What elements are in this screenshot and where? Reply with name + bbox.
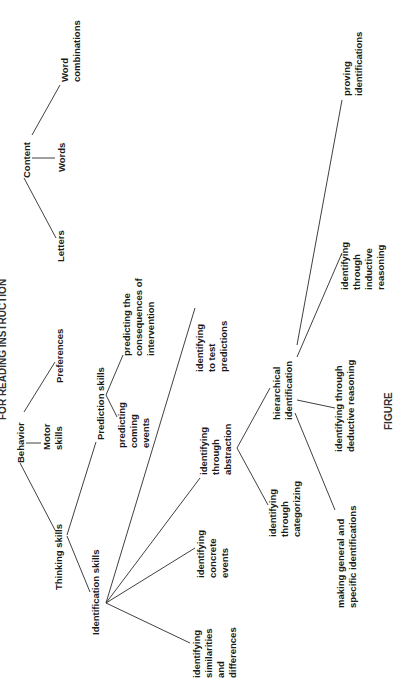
node-proving-identifications: proving identifications (341, 32, 364, 96)
node-word-combinations: Word combinations (59, 20, 82, 82)
node-identification-skills: Identification skills (90, 549, 101, 635)
svg-text:deductive reasoning: deductive reasoning (345, 359, 356, 452)
node-thinking-skills: Thinking skills (53, 524, 64, 590)
svg-text:intervention: intervention (145, 301, 156, 356)
node-prediction-skills: Prediction skills (95, 367, 106, 440)
svg-text:and: and (215, 661, 226, 678)
svg-text:Letters: Letters (55, 230, 66, 262)
node-identifying-concrete-events: identifying concrete events (195, 530, 230, 578)
svg-text:identifications: identifications (353, 32, 364, 96)
svg-text:Thinking skills: Thinking skills (53, 524, 64, 590)
svg-text:predictions: predictions (218, 321, 229, 372)
svg-text:categorizing: categorizing (291, 481, 302, 537)
node-words: Words (56, 143, 67, 172)
diagram-title: FOR READING INSTRUCTION (0, 279, 8, 420)
svg-text:consequences of: consequences of (133, 278, 144, 356)
edge-thinking-prediction (67, 442, 96, 535)
reading-skills-tree-diagram: FOR READING INSTRUCTION Content (0, 0, 395, 678)
svg-text:Content: Content (21, 141, 32, 178)
edge-prediction-consequences (106, 355, 123, 395)
edge-thinking-identification (67, 536, 90, 592)
node-behavior: Behavior (15, 422, 26, 463)
svg-text:identifying: identifying (194, 324, 205, 372)
figure-caption: FIGURE (383, 392, 394, 430)
edge-content-letters (24, 178, 56, 238)
node-making-general-specific: making general and specific identificati… (335, 506, 358, 608)
node-preferences: Preferences (54, 329, 65, 383)
svg-text:Prediction skills: Prediction skills (95, 367, 106, 440)
svg-text:similarities: similarities (203, 628, 214, 678)
svg-text:coming: coming (128, 414, 139, 448)
svg-text:predicting the: predicting the (121, 293, 132, 356)
svg-text:abstraction: abstraction (222, 424, 233, 475)
svg-text:making general and: making general and (335, 519, 346, 608)
edge-abstraction-hierarchical (237, 388, 270, 448)
node-predicting-consequences: predicting the consequences of intervent… (121, 278, 156, 356)
edge-behavior-preferences (24, 362, 55, 412)
svg-text:predicting: predicting (116, 402, 127, 448)
svg-text:Motor: Motor (41, 423, 52, 450)
svg-text:through: through (210, 439, 221, 475)
svg-text:Identification skills: Identification skills (90, 549, 101, 635)
svg-text:reasoning: reasoning (375, 244, 386, 290)
node-hierarchical-identification: hierarchical identification (271, 361, 294, 420)
svg-text:FIGURE: FIGURE (383, 392, 394, 430)
node-identifying-abstraction: identifying through abstraction (198, 424, 233, 475)
node-identifying-categorizing: identifying through categorizing (267, 481, 302, 537)
svg-text:identification: identification (283, 361, 294, 420)
svg-text:Words: Words (56, 143, 67, 172)
node-content: Content (21, 141, 32, 178)
edge-content-wordcomb (32, 85, 60, 135)
svg-text:identifying through: identifying through (333, 365, 344, 452)
svg-text:hierarchical: hierarchical (271, 367, 282, 420)
edge-hier-inductive (297, 253, 342, 357)
svg-text:FOR READING INSTRUCTION: FOR READING INSTRUCTION (0, 279, 8, 420)
node-motor-skills: Motor skills (41, 423, 64, 450)
svg-text:identifying: identifying (198, 427, 209, 475)
svg-text:through: through (351, 254, 362, 290)
svg-text:skills: skills (53, 426, 64, 450)
node-identifying-inductive: identifying through inductive reasoning (339, 242, 386, 290)
edge-abstraction-categorizing (237, 448, 268, 505)
svg-text:combinations: combinations (71, 20, 82, 82)
node-predicting-coming-events: predicting coming events (116, 402, 151, 448)
node-identifying-similarities: identifying similarities and differences (191, 627, 238, 678)
edge-thinking-behavior (20, 463, 55, 530)
svg-text:concrete: concrete (207, 538, 218, 578)
svg-text:through: through (279, 501, 290, 537)
svg-text:Preferences: Preferences (54, 329, 65, 383)
svg-text:identifying: identifying (267, 489, 278, 537)
svg-text:Word: Word (59, 58, 70, 82)
svg-text:inductive: inductive (363, 248, 374, 290)
node-identifying-deductive: identifying through deductive reasoning (333, 359, 356, 452)
svg-text:to test: to test (206, 343, 217, 372)
svg-text:events: events (140, 418, 151, 448)
svg-text:events: events (219, 548, 230, 578)
svg-text:identifying: identifying (339, 242, 350, 290)
edge-hier-deductive (297, 400, 335, 408)
node-identifying-test-predictions: identifying to test predictions (194, 321, 229, 372)
svg-text:differences: differences (227, 627, 238, 678)
svg-text:Behavior: Behavior (15, 422, 26, 463)
edge-ident-abstraction (106, 478, 200, 603)
node-letters: Letters (55, 230, 66, 262)
edge-ident-similarities (106, 603, 190, 643)
svg-text:identifying: identifying (195, 530, 206, 578)
edge-hier-proving (297, 100, 342, 345)
svg-text:identifying: identifying (191, 630, 202, 678)
svg-text:proving: proving (341, 61, 352, 96)
edge-ident-concrete (106, 548, 195, 603)
svg-text:specific identifications: specific identifications (347, 506, 358, 608)
